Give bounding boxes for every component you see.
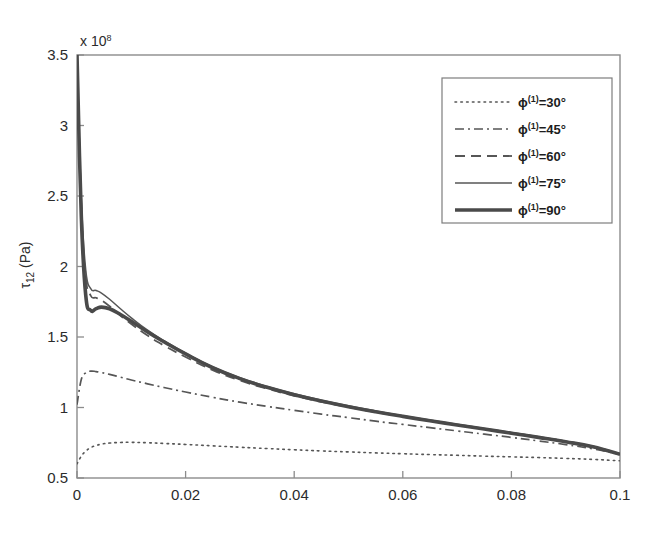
legend[interactable]: ϕ(1)=30°ϕ(1)=45°ϕ(1)=60°ϕ(1)=75°ϕ(1)=90° [442,78,612,223]
y-tick-label: 3 [60,117,68,134]
x-tick-label: 0.02 [171,486,200,503]
y-tick-label: 2.5 [47,187,68,204]
y-tick-label: 2 [60,258,68,275]
x-tick-label: 0.1 [610,486,631,503]
y-tick-label: 0.5 [47,469,68,486]
legend-label-45: ϕ(1)=45° [518,121,566,137]
figure-container: 00.020.040.060.080.1 0.511.522.533.5 x 1… [0,0,661,533]
x-tick-label: 0.04 [280,486,309,503]
chart-svg: 00.020.040.060.080.1 0.511.522.533.5 x 1… [0,0,661,533]
x-tick-label: 0 [73,486,81,503]
legend-label-60: ϕ(1)=60° [518,148,566,164]
y-tick-label: 1.5 [47,328,68,345]
x-tick-label: 0.08 [497,486,526,503]
x-tick-label: 0.06 [388,486,417,503]
legend-label-90: ϕ(1)=90° [518,202,566,218]
y-tick-label: 1 [60,399,68,416]
legend-label-75: ϕ(1)=75° [518,175,566,191]
y-tick-label: 3.5 [47,46,68,63]
legend-label-30: ϕ(1)=30° [518,94,566,110]
